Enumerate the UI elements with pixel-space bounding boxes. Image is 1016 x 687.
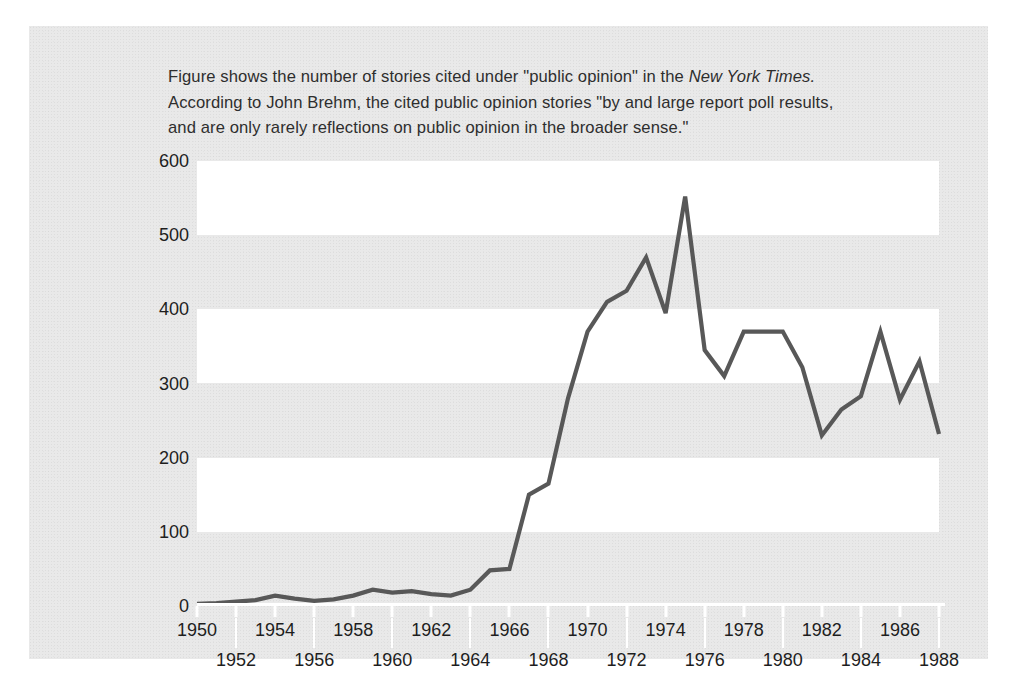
x-axis-tick [664, 606, 667, 617]
x-axis-tick [430, 606, 433, 617]
x-axis-label: 1964 [450, 650, 490, 671]
x-axis-tick [820, 606, 823, 617]
x-axis-tick [352, 606, 355, 617]
x-axis-label: 1980 [763, 650, 803, 671]
x-axis-tick [781, 606, 784, 617]
x-axis-tick [625, 606, 628, 617]
x-axis-ticks [197, 606, 939, 618]
x-axis-label: 1982 [802, 620, 842, 641]
caption-line-2-text: According to John Brehm, the cited publi… [168, 93, 833, 112]
y-axis-tick-label: 400 [133, 299, 189, 320]
caption-line-3-text: and are only rarely reflections on publi… [168, 118, 688, 137]
x-axis-label: 1950 [177, 620, 217, 641]
x-axis-tick [391, 606, 394, 617]
x-axis-tick [469, 606, 472, 617]
x-axis-tick [703, 606, 706, 617]
x-axis-label: 1952 [216, 650, 256, 671]
x-axis-label: 1962 [411, 620, 451, 641]
y-axis-tick-label: 500 [133, 225, 189, 246]
x-axis-label: 1970 [567, 620, 607, 641]
series-polyline [197, 197, 939, 604]
x-axis-labels-lower: 1952195619601964196819721976198019841988 [197, 650, 939, 674]
caption-line-1-text: Figure shows the number of stories cited… [168, 67, 689, 86]
x-axis-label: 1954 [255, 620, 295, 641]
caption-publication-name: New York Times. [689, 67, 815, 86]
x-axis-tick [508, 606, 511, 617]
x-axis-tick [898, 606, 901, 617]
x-axis-tick [859, 606, 862, 617]
x-axis-label: 1972 [607, 650, 647, 671]
x-axis-label: 1966 [489, 620, 529, 641]
x-axis-label: 1986 [880, 620, 920, 641]
figure-panel: Figure shows the number of stories cited… [29, 26, 988, 659]
series-line-chart [197, 161, 939, 606]
x-axis-label: 1958 [333, 620, 373, 641]
x-axis-tick [235, 606, 238, 617]
x-axis-label: 1976 [685, 650, 725, 671]
x-axis-label: 1974 [646, 620, 686, 641]
x-axis-label: 1984 [841, 650, 881, 671]
y-axis-tick-label: 200 [133, 447, 189, 468]
y-axis-tick-label: 100 [133, 521, 189, 542]
y-axis-tick-label: 600 [133, 151, 189, 172]
x-axis-label: 1968 [528, 650, 568, 671]
x-axis-tick [586, 606, 589, 617]
x-axis-tick [313, 606, 316, 617]
x-axis-tick [938, 606, 941, 617]
y-axis-tick-label: 300 [133, 373, 189, 394]
figure-caption: Figure shows the number of stories cited… [168, 64, 968, 141]
x-axis-labels-upper: 1950195419581962196619701974197819821986 [197, 620, 939, 644]
y-axis-tick-label: 0 [133, 596, 189, 617]
x-axis-tick [196, 606, 199, 617]
x-axis-label: 1988 [919, 650, 959, 671]
x-axis-label: 1978 [724, 620, 764, 641]
figure-root: Figure shows the number of stories cited… [0, 0, 1016, 687]
y-axis: 6005004003002001000 [133, 161, 189, 606]
x-axis-label: 1960 [372, 650, 412, 671]
x-axis-label: 1956 [294, 650, 334, 671]
x-axis-tick [547, 606, 550, 617]
plot-area [197, 161, 939, 606]
x-axis-tick [742, 606, 745, 617]
x-axis-tick [274, 606, 277, 617]
